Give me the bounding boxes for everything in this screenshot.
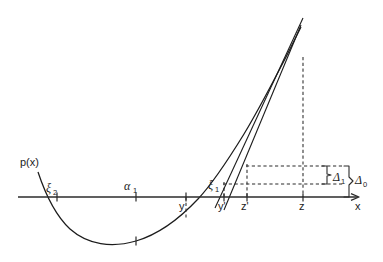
math-diagram-svg: p(x) ξ 2 α 1 y ξ 1 y' z' z x Δ 1 [0,0,383,262]
svg-text:2: 2 [53,188,57,197]
polynomial-curve-px [38,27,301,245]
secant-line [215,18,303,208]
svg-text:0: 0 [363,180,367,189]
tangent-line [224,25,301,210]
svg-text:1: 1 [215,185,219,194]
label-delta1: Δ 1 [332,170,345,186]
svg-text:Δ: Δ [354,173,362,187]
svg-text:1: 1 [341,177,345,186]
label-z: z [299,200,305,212]
label-yprime: y' [218,200,226,212]
bracket-delta1 [322,166,331,184]
svg-text:α: α [124,179,131,193]
label-xi2: ξ 2 [46,181,57,197]
figure-root: p(x) ξ 2 α 1 y ξ 1 y' z' z x Δ 1 [0,0,383,262]
svg-text:1: 1 [133,186,137,195]
svg-text:ξ: ξ [46,181,52,195]
label-y: y [179,200,185,212]
svg-text:ξ: ξ [208,178,214,192]
svg-text:Δ: Δ [332,170,340,184]
label-delta0: Δ 0 [354,173,367,189]
bracket-delta0 [344,166,353,197]
label-x-axis: x [355,200,361,212]
label-zprime: z' [241,200,249,212]
label-alpha1: α 1 [124,179,137,195]
curve-label-px: p(x) [20,156,39,168]
